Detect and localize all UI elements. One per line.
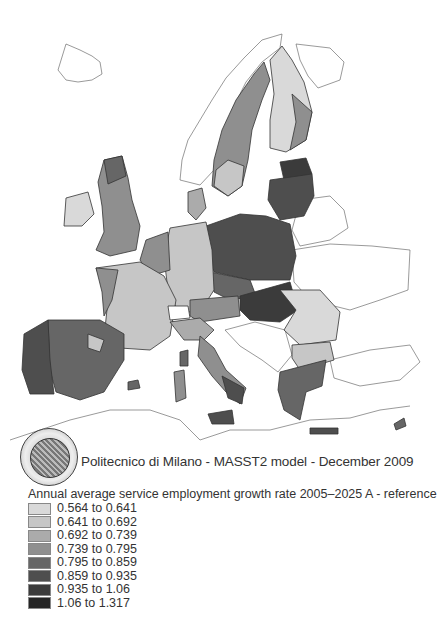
legend-swatch (28, 543, 51, 555)
legend-label: 0.739 to 0.795 (57, 543, 137, 556)
legend-swatch (28, 597, 51, 609)
map-caption: Politecnico di Milano - MASST2 model - D… (81, 454, 413, 469)
legend-swatch (28, 503, 51, 515)
region-latvia-lithuania (268, 174, 314, 220)
legend-label: 0.641 to 0.692 (57, 516, 137, 529)
legend-swatch (28, 516, 51, 528)
balkans-outline (225, 322, 292, 372)
region-greece (278, 360, 326, 420)
legend-title: Annual average service employment growth… (28, 487, 437, 501)
region-ireland (64, 192, 94, 226)
region-cyprus (394, 418, 406, 430)
region-corsica (180, 350, 188, 366)
region-poland (204, 214, 296, 280)
region-denmark (188, 188, 206, 220)
region-romania (280, 290, 340, 345)
legend-label: 1.06 to 1.317 (57, 597, 130, 610)
region-sardinia (174, 370, 186, 402)
legend-swatch (28, 584, 51, 596)
region-balearics (128, 380, 140, 390)
legend: Annual average service employment growth… (24, 487, 437, 610)
region-italy-north (170, 318, 214, 340)
seal-emblem (30, 438, 70, 478)
europe-choropleth-map (0, 0, 434, 480)
legend-item: 1.06 to 1.317 (24, 597, 437, 611)
legend-swatch (28, 570, 51, 582)
legend-swatch (28, 557, 51, 569)
legend-label: 0.692 to 0.739 (57, 529, 137, 542)
turkey-outline (330, 345, 420, 386)
legend-label: 0.795 to 0.859 (57, 556, 137, 569)
politecnico-seal-logo (20, 428, 78, 486)
legend-item: 0.859 to 0.935 (24, 570, 437, 584)
legend-rows: 0.564 to 0.6410.641 to 0.6920.692 to 0.7… (24, 502, 437, 610)
iceland-outline (58, 44, 102, 82)
region-switzerland (168, 306, 190, 320)
legend-item: 0.795 to 0.859 (24, 556, 437, 570)
legend-item: 0.641 to 0.692 (24, 516, 437, 530)
legend-item: 0.739 to 0.795 (24, 543, 437, 557)
legend-item: 0.692 to 0.739 (24, 529, 437, 543)
legend-item: 0.935 to 1.06 (24, 583, 437, 597)
legend-item: 0.564 to 0.641 (24, 502, 437, 516)
region-spain (48, 320, 124, 400)
legend-label: 0.564 to 0.641 (57, 502, 137, 515)
legend-swatch (28, 530, 51, 542)
region-sicily (208, 410, 234, 424)
region-crete (310, 428, 338, 434)
legend-label: 0.859 to 0.935 (57, 570, 137, 583)
legend-label: 0.935 to 1.06 (57, 583, 130, 596)
north-africa-coast (10, 406, 410, 440)
